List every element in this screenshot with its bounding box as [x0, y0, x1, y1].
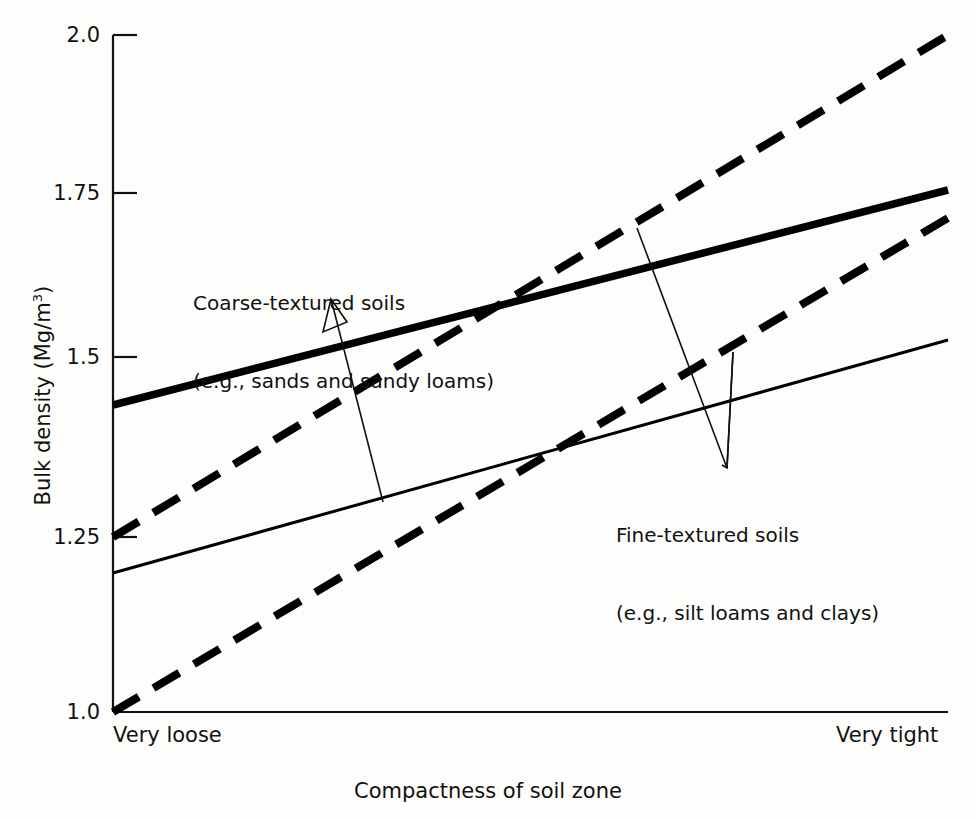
- y-tick-label-1-75: 1.75: [14, 180, 100, 207]
- y-axis-title-main: Bulk density (Mg/m: [31, 302, 55, 505]
- annotation-fine-line1: Fine-textured soils: [616, 522, 879, 548]
- annotation-coarse-line2: (e.g., sands and sandy loams): [193, 368, 494, 394]
- y-tick-label-1-0: 1.0: [14, 699, 100, 726]
- leader-fine-apex: [722, 352, 733, 468]
- annotation-coarse-line1: Coarse-textured soils: [193, 290, 494, 316]
- leader-fine-branch-a: [637, 228, 727, 468]
- y-axis-title-text: Bulk density (Mg/m3): [30, 286, 57, 506]
- x-tick-label-very-tight: Very tight: [836, 722, 938, 749]
- chart-figure: 2.0 1.75 1.5 1.25 1.0 Bulk density (Mg/m…: [0, 0, 976, 819]
- y-tick-label-2-0: 2.0: [14, 22, 100, 49]
- x-tick-label-very-loose: Very loose: [113, 722, 222, 749]
- y-axis-title: Bulk density (Mg/m3): [30, 226, 57, 566]
- y-axis-title-tail: ): [31, 286, 55, 294]
- annotation-coarse-textured: Coarse-textured soils (e.g., sands and s…: [193, 238, 494, 446]
- y-axis-ticks: [113, 35, 137, 537]
- x-axis-title: Compactness of soil zone: [0, 778, 976, 805]
- y-axis-title-exponent: 3: [30, 294, 45, 302]
- annotation-fine-textured: Fine-textured soils (e.g., silt loams an…: [616, 470, 879, 678]
- annotation-fine-line2: (e.g., silt loams and clays): [616, 600, 879, 626]
